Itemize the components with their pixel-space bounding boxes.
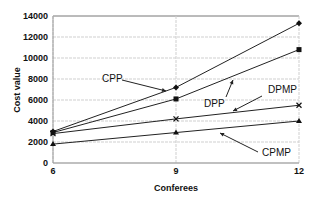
annotation-label-cpp: CPP [102, 73, 123, 84]
x-tick-label: 12 [294, 166, 304, 176]
annotation-label-dpp: DPP [204, 98, 225, 109]
series-lines [50, 20, 302, 146]
annotation-arrow [233, 96, 262, 111]
marker-diamond-icon [173, 84, 179, 90]
y-tick-label: 6000 [28, 95, 48, 105]
y-tick-label: 4000 [28, 116, 48, 126]
x-axis-title: Conferees [154, 183, 198, 193]
y-tick-label: 14000 [23, 11, 48, 21]
x-tick-label: 6 [50, 166, 55, 176]
y-tick-label: 0 [43, 158, 48, 168]
y-tick-label: 10000 [23, 53, 48, 63]
x-axis-ticks: 6912 [50, 166, 304, 176]
marker-triangle-icon [296, 118, 302, 123]
y-axis-title: Cost value [12, 67, 22, 113]
annotation-label-cpmp: CPMP [262, 147, 291, 158]
annotations: CPPDPPDPMPCPMP [102, 73, 297, 158]
y-axis-ticks: 02000400060008000100001200014000 [23, 11, 48, 168]
y-tick-label: 2000 [28, 137, 48, 147]
marker-square-icon [297, 47, 302, 52]
y-tick-label: 8000 [28, 74, 48, 84]
x-tick-label: 9 [173, 166, 178, 176]
annotation-label-dpmp: DPMP [268, 84, 297, 95]
annotation-arrow [122, 80, 166, 91]
marker-square-icon [174, 96, 179, 101]
marker-diamond-icon [296, 20, 302, 26]
line-chart: 02000400060008000100001200014000 6912 CP… [0, 0, 319, 200]
y-tick-label: 12000 [23, 32, 48, 42]
